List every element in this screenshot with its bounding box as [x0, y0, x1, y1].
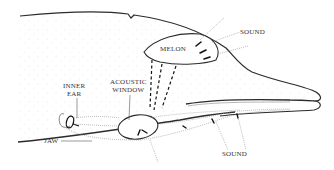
- label-inner-ear-line1: INNER: [63, 82, 85, 90]
- jaw-sound-arrows: [183, 114, 238, 128]
- label-sound-bottom: SOUND: [222, 150, 247, 158]
- label-inner-ear: INNER EAR: [63, 82, 85, 98]
- label-melon: MELON: [160, 45, 186, 53]
- label-acoustic-window: ACOUSTIC WINDOW: [110, 78, 147, 94]
- label-inner-ear-line2: EAR: [63, 90, 85, 98]
- label-sound-top: SOUND: [240, 28, 265, 36]
- sound-beams-bottom: [216, 117, 246, 150]
- label-jaw: JAW: [44, 137, 58, 145]
- label-acoustic-window-line1: ACOUSTIC: [110, 78, 147, 86]
- label-acoustic-window-line2: WINDOW: [110, 86, 147, 94]
